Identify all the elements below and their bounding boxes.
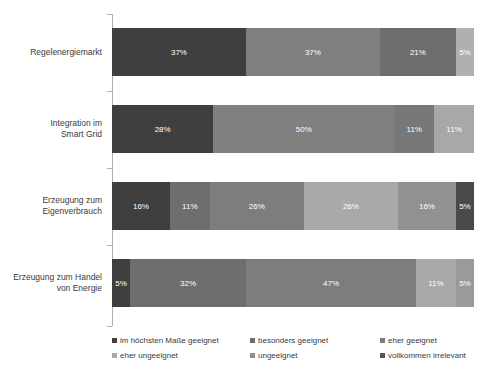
axis-tick (107, 14, 112, 15)
category-label: Erzeugung zum Eigenverbrauch (0, 195, 102, 217)
segment-value-label: 5% (459, 48, 471, 57)
plot-area: Regelenergiemarkt37%37%21%5%Integration … (112, 14, 474, 326)
segment-value-label: 50% (296, 125, 312, 134)
legend-swatch-icon (250, 338, 255, 343)
legend-swatch-icon (380, 338, 385, 343)
bar-segment: 26% (304, 182, 398, 230)
category-label: Integration im Smart Grid (0, 118, 102, 140)
bar-segment: 37% (246, 28, 380, 76)
legend-label: besonders geeignet (258, 336, 328, 345)
segment-value-label: 16% (133, 202, 149, 211)
stacked-bar: 37%37%21%5% (112, 28, 474, 76)
bar-segment: 16% (398, 182, 456, 230)
bar-row: Integration im Smart Grid28%50%11%11% (112, 105, 474, 153)
bar-segment: 50% (213, 105, 394, 153)
legend-label: eher geeignet (388, 336, 437, 345)
bar-segment: 5% (456, 182, 474, 230)
legend-label: eher ungeeignet (120, 351, 178, 360)
category-label: Regelenergiemarkt (0, 47, 102, 58)
axis-tick (107, 91, 112, 92)
stacked-bar: 5%32%47%11%5% (112, 259, 474, 307)
segment-value-label: 11% (407, 125, 422, 134)
legend-swatch-icon (112, 353, 117, 358)
segment-value-label: 21% (410, 48, 426, 57)
chart-legend: im höchsten Maße geeignetbesonders geeig… (112, 333, 472, 363)
legend-item[interactable]: ungeeignet (250, 351, 380, 360)
bar-segment: 5% (456, 28, 474, 76)
legend-swatch-icon (380, 353, 385, 358)
segment-value-label: 11% (428, 279, 443, 288)
segment-value-label: 5% (459, 279, 471, 288)
category-label: Erzeugung zum Handel von Energie (0, 272, 102, 294)
bar-segment: 47% (246, 259, 416, 307)
bar-segment: 5% (456, 259, 474, 307)
axis-tick (107, 245, 112, 246)
legend-label: vollkommen irrelevant (388, 351, 466, 360)
bar-segment: 11% (394, 105, 434, 153)
legend-item[interactable]: besonders geeignet (250, 336, 380, 345)
segment-value-label: 26% (249, 202, 265, 211)
legend-item[interactable]: eher geeignet (380, 336, 472, 345)
legend-label: ungeeignet (258, 351, 298, 360)
bar-row: Erzeugung zum Eigenverbrauch16%11%26%26%… (112, 182, 474, 230)
stacked-bar-chart: Regelenergiemarkt37%37%21%5%Integration … (0, 0, 484, 372)
segment-value-label: 5% (115, 279, 127, 288)
bar-row: Erzeugung zum Handel von Energie5%32%47%… (112, 259, 474, 307)
legend-item[interactable]: eher ungeeignet (112, 351, 250, 360)
bar-segment: 5% (112, 259, 130, 307)
segment-value-label: 47% (323, 279, 339, 288)
stacked-bar: 28%50%11%11% (112, 105, 474, 153)
bar-segment: 21% (380, 28, 456, 76)
legend-item[interactable]: im höchsten Maße geeignet (112, 336, 250, 345)
stacked-bar: 16%11%26%26%16%5% (112, 182, 474, 230)
segment-value-label: 32% (180, 279, 196, 288)
bar-segment: 11% (434, 105, 474, 153)
bar-segment: 28% (112, 105, 213, 153)
bar-segment: 26% (210, 182, 304, 230)
bar-segment: 11% (170, 182, 210, 230)
legend-item[interactable]: vollkommen irrelevant (380, 351, 472, 360)
legend-swatch-icon (112, 338, 117, 343)
axis-tick (107, 168, 112, 169)
legend-label: im höchsten Maße geeignet (120, 336, 219, 345)
bar-segment: 37% (112, 28, 246, 76)
segment-value-label: 37% (171, 48, 187, 57)
legend-swatch-icon (250, 353, 255, 358)
segment-value-label: 37% (305, 48, 321, 57)
segment-value-label: 11% (446, 125, 461, 134)
segment-value-label: 5% (459, 202, 471, 211)
bar-segment: 16% (112, 182, 170, 230)
segment-value-label: 16% (419, 202, 435, 211)
axis-tick (107, 326, 112, 327)
segment-value-label: 11% (182, 202, 197, 211)
bar-segment: 11% (416, 259, 456, 307)
bar-segment: 32% (130, 259, 246, 307)
segment-value-label: 28% (155, 125, 171, 134)
segment-value-label: 26% (343, 202, 359, 211)
bar-row: Regelenergiemarkt37%37%21%5% (112, 28, 474, 76)
